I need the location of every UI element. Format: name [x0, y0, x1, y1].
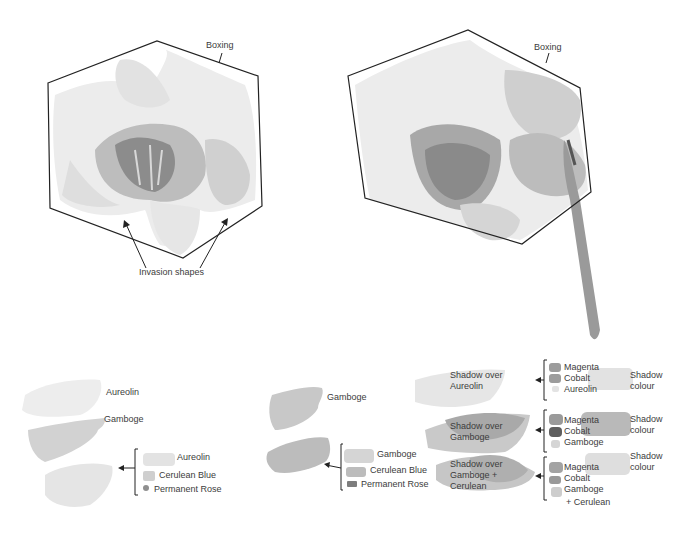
- illustration-canvas: [0, 0, 693, 536]
- mix-middle-item-1: Gamboge: [377, 449, 417, 460]
- mix-middle-item-3: Permanent Rose: [361, 479, 429, 490]
- shadow-row-1-mix: Magenta Cobalt Aureolin: [564, 362, 599, 395]
- shadow-row-2-mix: Magenta Cobalt Gamboge: [564, 415, 604, 448]
- invasion-shapes-label: Invasion shapes: [139, 267, 204, 278]
- boxing-label-right: Boxing: [534, 42, 562, 53]
- swatches-left-group: [22, 380, 175, 507]
- shadow-row-3-result: Shadow colour: [630, 451, 663, 473]
- shadow-row-2-result: Shadow colour: [630, 414, 663, 436]
- swatch-label-aureolin: Aureolin: [106, 387, 139, 398]
- boxing-label-left: Boxing: [206, 40, 234, 51]
- shadow-row-1-label: Shadow over Aureolin: [450, 370, 503, 392]
- shadow-row-3-label: Shadow over Gamboge + Cerulean: [450, 459, 503, 492]
- shadow-row-3-mix: Magenta Cobalt Gamboge: [564, 462, 604, 495]
- shadow-row-1-result: Shadow colour: [630, 370, 663, 392]
- shadow-row-3-extra: + Cerulean: [566, 497, 610, 508]
- swatch-label-gamboge: Gamboge: [104, 414, 144, 425]
- mix-left-item-1: Aureolin: [177, 452, 210, 463]
- mix-left-item-3: Permanent Rose: [154, 484, 222, 495]
- mix-middle-item-2: Cerulean Blue: [370, 465, 427, 476]
- right-flower-painting: [355, 40, 600, 339]
- shadow-row-2-label: Shadow over Gamboge: [450, 421, 503, 443]
- swatch-label-gamboge-middle: Gamboge: [327, 392, 367, 403]
- mix-left-item-2: Cerulean Blue: [159, 470, 216, 481]
